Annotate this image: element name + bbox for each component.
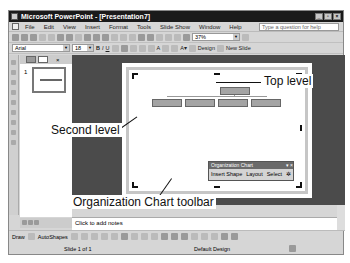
italic-button[interactable]: I [102,45,104,51]
tool-icon[interactable] [11,110,16,115]
undo-icon[interactable] [120,34,127,41]
menu-insert[interactable]: Insert [85,24,100,30]
open-icon[interactable] [21,34,28,41]
menu-view[interactable]: View [63,24,76,30]
redo-icon[interactable] [129,34,136,41]
align-left-icon[interactable] [112,45,119,52]
email-icon[interactable] [48,34,55,41]
clipart-icon[interactable] [141,233,148,240]
rectangle-icon[interactable] [91,233,98,240]
diagram-icon[interactable] [131,233,138,240]
close-button[interactable]: × [333,13,341,20]
select-button[interactable]: Select [267,171,282,177]
tool-icon[interactable] [11,70,16,75]
copy-icon[interactable] [93,34,100,41]
fill-color-icon[interactable] [161,233,168,240]
increase-font-button[interactable]: A [157,45,161,51]
menu-window[interactable]: Window [199,24,220,30]
resize-handle[interactable] [214,186,220,188]
normal-view-icon[interactable] [22,220,27,225]
help-icon[interactable] [242,34,249,41]
tab-slides[interactable] [38,56,48,63]
paste-icon[interactable] [102,34,109,41]
close-icon[interactable]: ▾ × [286,162,293,169]
new-slide-button[interactable]: New Slide [226,45,251,51]
resize-handle[interactable] [300,125,302,131]
font-color-button[interactable]: A▾ [180,45,187,51]
bullets-icon[interactable] [148,45,155,52]
increase-indent-icon[interactable] [171,45,178,52]
picture-icon[interactable] [151,233,158,240]
tool-icon[interactable] [11,130,16,135]
wordart-icon[interactable] [121,233,128,240]
minimize-button[interactable]: _ [315,13,323,20]
tool-icon[interactable] [11,120,16,125]
tool-icon[interactable] [11,140,16,145]
menu-edit[interactable]: Edit [44,24,54,30]
second-level-box[interactable] [218,99,248,107]
draw-menu[interactable]: Draw [12,234,25,240]
print-preview-icon[interactable] [66,34,73,41]
menu-help[interactable]: Help [229,24,241,30]
tool-icon[interactable] [11,80,16,85]
color-grayscale-icon[interactable] [183,34,190,41]
autoformat-icon[interactable]: ✲ [286,171,291,177]
tool-icon[interactable] [11,90,16,95]
cut-icon[interactable] [84,34,91,41]
restore-button[interactable]: ▫ [324,13,332,20]
print-icon[interactable] [57,34,64,41]
3d-icon[interactable] [231,233,238,240]
menu-tools[interactable]: Tools [137,24,151,30]
dash-style-icon[interactable] [201,233,208,240]
second-level-box[interactable] [251,99,281,107]
tab-outline[interactable] [26,56,36,63]
font-size-select[interactable]: 18▼ [72,44,94,52]
autoshapes-menu[interactable]: AutoShapes [38,234,68,240]
align-center-icon[interactable] [121,45,128,52]
numbering-icon[interactable] [139,45,146,52]
resize-handle[interactable] [132,73,138,79]
format-painter-icon[interactable] [111,34,118,41]
permission-icon[interactable] [39,34,46,41]
tool-icon[interactable] [11,100,16,105]
line-style-icon[interactable] [191,233,198,240]
slide-sorter-icon[interactable] [28,220,33,225]
zoom-select[interactable]: 37%▼ [192,33,240,41]
second-level-box[interactable] [152,99,182,107]
save-icon[interactable] [30,34,37,41]
resize-handle[interactable] [132,182,138,188]
show-formatting-icon[interactable] [174,34,181,41]
shadow-icon[interactable] [221,233,228,240]
layout-button[interactable]: Layout [246,171,263,177]
align-right-icon[interactable] [130,45,137,52]
menu-file[interactable]: File [25,24,35,30]
insert-chart-icon[interactable] [138,34,145,41]
notes-pane[interactable]: Click to add notes [72,217,337,230]
arrow-icon[interactable] [81,233,88,240]
menu-format[interactable]: Format [109,24,128,30]
bold-button[interactable]: B [96,45,100,51]
design-button[interactable]: Design [198,45,215,51]
vertical-scrollbar[interactable] [337,205,345,230]
tables-borders-icon[interactable] [156,34,163,41]
font-select[interactable]: Arial▼ [12,44,70,52]
oval-icon[interactable] [101,233,108,240]
arrow-style-icon[interactable] [211,233,218,240]
tool-icon[interactable] [11,60,16,65]
slide-show-icon[interactable] [34,220,39,225]
help-search-input[interactable]: Type a question for help [259,23,339,31]
top-level-box[interactable] [220,87,250,95]
slide-thumbnail[interactable] [32,67,66,93]
textbox-icon[interactable] [111,233,118,240]
line-color-icon[interactable] [171,233,178,240]
expand-all-icon[interactable] [165,34,172,41]
close-pane-icon[interactable]: × [56,57,60,63]
menu-slide-show[interactable]: Slide Show [160,24,190,30]
select-objects-icon[interactable] [28,233,35,240]
font-color-icon[interactable] [181,233,188,240]
insert-shape-button[interactable]: Insert Shape [211,171,242,177]
document-icon[interactable] [12,23,19,30]
resize-handle[interactable] [214,73,220,75]
new-icon[interactable] [12,34,19,41]
spelling-icon[interactable] [75,34,82,41]
